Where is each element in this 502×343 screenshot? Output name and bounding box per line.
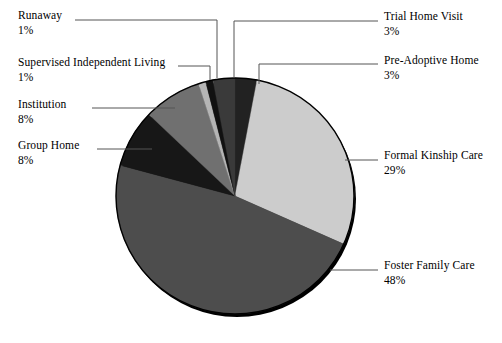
- slice-label-formal-kinship-care: Formal Kinship Care 29%: [384, 148, 483, 177]
- slice-label-formal-kinship-care-percent: 29%: [384, 163, 483, 178]
- pie-slice-group: [116, 78, 354, 314]
- slice-label-runaway-percent: 1%: [18, 23, 62, 38]
- slice-label-group-home: Group Home 8%: [18, 138, 79, 167]
- slice-label-trial-home-visit-name: Trial Home Visit: [384, 9, 463, 24]
- slice-label-foster-family-care: Foster Family Care 48%: [384, 258, 475, 287]
- slice-label-foster-family-care-percent: 48%: [384, 273, 475, 288]
- slice-label-institution: Institution 8%: [18, 97, 66, 126]
- slice-label-runaway-name: Runaway: [18, 8, 62, 23]
- leader-line-trial-home-visit: [234, 21, 378, 78]
- slice-label-institution-name: Institution: [18, 97, 66, 112]
- slice-label-pre-adoptive-home: Pre-Adoptive Home 3%: [384, 53, 479, 82]
- slice-label-group-home-name: Group Home: [18, 138, 79, 153]
- slice-label-institution-percent: 8%: [18, 112, 66, 127]
- slice-label-formal-kinship-care-name: Formal Kinship Care: [384, 148, 483, 163]
- leader-line-supervised-independent-living: [178, 66, 210, 80]
- pie-chart: Runaway 1% Supervised Independent Living…: [0, 0, 502, 343]
- leader-line-pre-adoptive-home: [259, 64, 378, 84]
- slice-label-group-home-percent: 8%: [18, 153, 79, 168]
- slice-label-trial-home-visit-percent: 3%: [384, 24, 463, 39]
- slice-label-foster-family-care-name: Foster Family Care: [384, 258, 475, 273]
- slice-label-supervised-independent-living-percent: 1%: [18, 70, 165, 85]
- slice-label-supervised-independent-living: Supervised Independent Living 1%: [18, 55, 165, 84]
- slice-label-trial-home-visit: Trial Home Visit 3%: [384, 9, 463, 38]
- slice-label-runaway: Runaway 1%: [18, 8, 62, 37]
- slice-label-pre-adoptive-home-name: Pre-Adoptive Home: [384, 53, 479, 68]
- slice-label-supervised-independent-living-name: Supervised Independent Living: [18, 55, 165, 70]
- slice-label-pre-adoptive-home-percent: 3%: [384, 68, 479, 83]
